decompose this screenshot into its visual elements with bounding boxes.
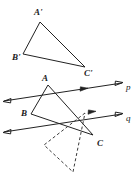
triangle-intermediate-dashed bbox=[44, 113, 85, 172]
line-p-direction-arrow-icon bbox=[80, 87, 88, 91]
triangle-image-a-prime-b-prime-c-prime bbox=[23, 22, 85, 67]
line-q-direction-arrow-icon bbox=[88, 110, 96, 114]
line-p bbox=[4, 83, 122, 101]
vertex-label-c-prime: C' bbox=[84, 68, 93, 78]
line-p-group bbox=[3, 81, 123, 103]
line-label-p: p bbox=[125, 82, 131, 92]
vertex-label-a-prime: A' bbox=[33, 7, 43, 17]
vertex-label-b-prime: B' bbox=[11, 52, 21, 62]
geometry-diagram: A' B' C' A B C p q bbox=[0, 0, 140, 173]
line-label-q: q bbox=[126, 113, 131, 123]
geometry-canvas: A' B' C' A B C p q bbox=[0, 0, 140, 173]
vertex-label-b: B bbox=[20, 108, 27, 118]
vertex-label-c: C bbox=[97, 138, 104, 148]
vertex-label-a: A bbox=[41, 73, 48, 83]
